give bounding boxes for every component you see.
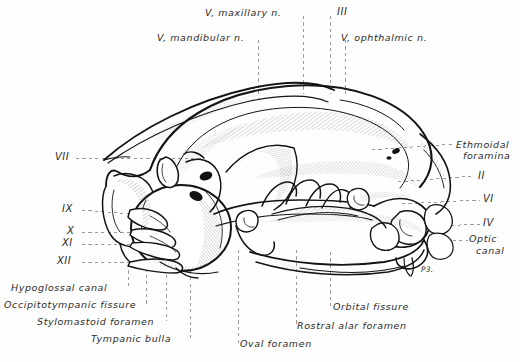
label-occipitotympanic-fissure: Occipitotympanic fissure [4, 299, 136, 310]
label-oval-foramen: Oval foramen [240, 338, 312, 349]
label-v-mandibular: V, mandibular n. [157, 32, 244, 43]
label-optic-canal-line2: canal [476, 245, 505, 256]
leader-cn-ix [82, 210, 130, 214]
label-cn-x: X [67, 225, 74, 236]
label-v-maxillary: V, maxillary n. [205, 7, 281, 18]
anatomical-figure: V, maxillary n. III V, mandibular n. V, … [0, 0, 520, 362]
label-cn-xii: XII [57, 255, 71, 266]
label-tympanic-bulla: Tympanic bulla [91, 333, 171, 344]
label-cn-ix: IX [62, 203, 73, 214]
label-rostral-alar-foramen: Rostral alar foramen [297, 320, 407, 331]
label-stylomastoid-foramen: Stylomastoid foramen [37, 316, 154, 327]
label-optic-canal-line1: Optic [469, 233, 497, 244]
vault-shade-2 [252, 161, 418, 186]
label-cn-ii: II [478, 170, 485, 181]
leader-lines [76, 16, 480, 344]
occipital-inner [112, 190, 120, 232]
label-ethmoidal-foramina-line1: Ethmoidal [456, 139, 509, 150]
palate-shade [280, 262, 398, 274]
label-cn-vi: VI [483, 193, 494, 204]
internal-acoustic-opening [199, 170, 214, 182]
label-cn-vii: VII [55, 151, 69, 162]
separate-nerve-stub [236, 210, 258, 231]
small-foramen-ring [427, 233, 453, 259]
label-cn-iii: III [337, 6, 347, 17]
label-cn-xi: XI [62, 237, 73, 248]
alar-canal-ring [424, 205, 452, 235]
label-orbital-fissure: Orbital fissure [333, 301, 409, 312]
ophthalmic-nerve-root [306, 184, 341, 206]
tooth-p3-b [404, 258, 410, 276]
label-v-ophthalmic: V, ophthalmic n. [341, 32, 427, 43]
label-cn-iv: IV [483, 217, 494, 228]
tooth-p3 [411, 258, 413, 276]
label-ethmoidal-foramina-line2: foramina [463, 150, 510, 161]
skull-outline [103, 83, 454, 278]
label-hypoglossal-canal: Hypoglossal canal [11, 282, 107, 293]
label-tooth-marker: P3. [421, 264, 433, 275]
ethmoidal-foramen-opening-2 [386, 156, 391, 160]
